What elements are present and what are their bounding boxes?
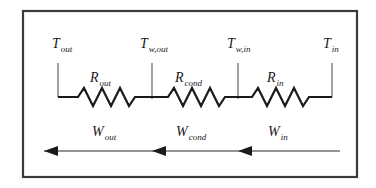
thermal-network-diagram: Tout Tw,out Tw,in Tin Rout Rcond Rin [0,0,376,188]
thermal-resistance-figure: Tout Tw,out Tw,in Tin Rout Rcond Rin [0,0,376,188]
